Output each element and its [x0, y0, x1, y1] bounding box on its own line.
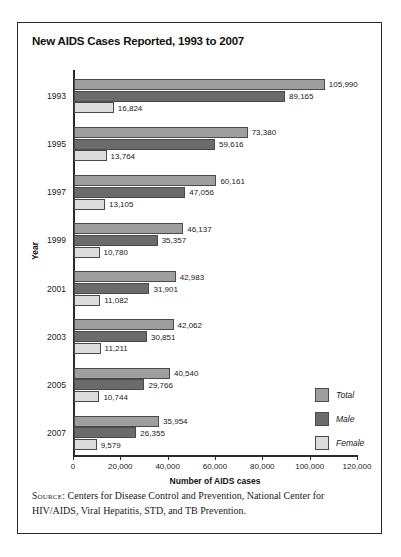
bar-value-label: 59,616: [219, 140, 243, 149]
bar-value-label: 105,990: [329, 80, 358, 89]
year-label-1993: 1993: [28, 91, 66, 101]
year-label-1995: 1995: [28, 139, 66, 149]
year-label-2001: 2001: [28, 284, 66, 294]
bar-value-label: 47,056: [189, 188, 213, 197]
x-tick-mark: [310, 455, 311, 460]
bar-female-1999: [74, 247, 100, 258]
x-tick-mark: [168, 455, 169, 460]
x-axis-title: Number of AIDS cases: [73, 476, 357, 486]
chart-figure: New AIDS Cases Reported, 1993 to 2007 02…: [17, 22, 382, 534]
source-text: Centers for Disease Control and Preventi…: [32, 490, 324, 516]
legend-item-female[interactable]: Female: [315, 431, 377, 455]
bar-value-label: 31,901: [153, 284, 177, 293]
x-tick-label: 40,000: [155, 462, 179, 471]
bar-female-2005: [74, 391, 99, 402]
bar-female-1995: [74, 150, 107, 161]
x-tick-label: 120,000: [343, 462, 372, 471]
bar-male-2001: [74, 283, 149, 294]
x-tick-label: 60,000: [203, 462, 227, 471]
bar-male-1997: [74, 187, 185, 198]
bar-male-1995: [74, 139, 215, 150]
year-label-1997: 1997: [28, 187, 66, 197]
legend-swatch-female: [315, 436, 329, 450]
x-tick-label: 0: [71, 462, 75, 471]
y-axis-title: Year: [30, 242, 40, 260]
bar-female-2001: [74, 295, 100, 306]
bar-value-label: 42,983: [180, 272, 204, 281]
x-tick-mark: [262, 455, 263, 460]
bar-value-label: 9,579: [101, 440, 121, 449]
bar-female-2007: [74, 439, 97, 450]
bar-total-1999: [74, 223, 183, 234]
x-tick-mark: [120, 455, 121, 460]
bar-value-label: 60,161: [220, 176, 244, 185]
bar-male-1999: [74, 235, 158, 246]
bar-value-label: 10,744: [103, 392, 127, 401]
legend-swatch-total: [315, 388, 329, 402]
bar-value-label: 30,851: [151, 332, 175, 341]
x-tick-label: 80,000: [250, 462, 274, 471]
bar-female-1997: [74, 199, 105, 210]
chart-legend: TotalMaleFemale: [315, 383, 377, 455]
bar-value-label: 10,780: [104, 248, 128, 257]
bar-total-1995: [74, 127, 248, 138]
bar-total-2005: [74, 368, 170, 379]
year-label-2005: 2005: [28, 380, 66, 390]
bar-total-2007: [74, 416, 159, 427]
legend-label: Total: [336, 390, 354, 400]
legend-item-total[interactable]: Total: [315, 383, 377, 407]
bar-value-label: 42,062: [178, 320, 202, 329]
bar-value-label: 13,764: [111, 151, 135, 160]
bar-value-label: 73,380: [252, 128, 276, 137]
x-tick-mark: [73, 455, 74, 460]
legend-swatch-male: [315, 412, 329, 426]
bar-value-label: 13,105: [109, 200, 133, 209]
bar-value-label: 11,211: [105, 344, 128, 353]
bar-male-2007: [74, 427, 136, 438]
year-label-2003: 2003: [28, 332, 66, 342]
chart-title: New AIDS Cases Reported, 1993 to 2007: [32, 35, 244, 47]
bar-male-1993: [74, 91, 285, 102]
bar-value-label: 11,082: [104, 296, 128, 305]
x-tick-mark: [215, 455, 216, 460]
x-tick-label: 100,000: [295, 462, 324, 471]
bar-value-label: 26,355: [140, 428, 164, 437]
legend-item-male[interactable]: Male: [315, 407, 377, 431]
bar-male-2003: [74, 331, 147, 342]
x-tick-mark: [357, 455, 358, 460]
bar-value-label: 40,540: [174, 369, 198, 378]
source-label: Source:: [32, 491, 65, 501]
bar-value-label: 29,766: [148, 380, 172, 389]
source-note: Source: Centers for Disease Control and …: [32, 489, 362, 517]
bar-value-label: 46,137: [187, 224, 211, 233]
legend-label: Female: [336, 438, 364, 448]
year-label-2007: 2007: [28, 428, 66, 438]
bar-value-label: 35,954: [163, 417, 187, 426]
x-tick-label: 20,000: [108, 462, 132, 471]
bar-value-label: 16,824: [118, 103, 142, 112]
legend-label: Male: [336, 414, 354, 424]
bar-female-2003: [74, 343, 101, 354]
bar-total-1993: [74, 79, 325, 90]
bar-value-label: 35,357: [162, 236, 186, 245]
bar-male-2005: [74, 379, 144, 390]
bar-total-2001: [74, 271, 176, 282]
bar-total-2003: [74, 319, 174, 330]
bar-female-1993: [74, 102, 114, 113]
bar-value-label: 89,165: [289, 92, 313, 101]
bar-total-1997: [74, 175, 216, 186]
